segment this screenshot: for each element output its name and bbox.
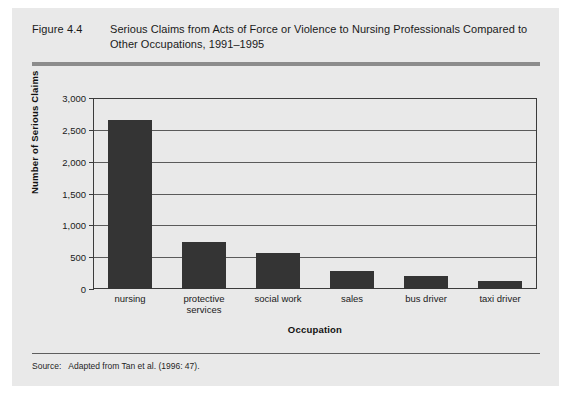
y-axis-title: Number of Serious Claims <box>29 70 40 194</box>
figure-title: Serious Claims from Acts of Force or Vio… <box>110 22 542 51</box>
y-axis-tick-label: 2,500 <box>62 124 86 135</box>
y-axis-tick-label: 3,000 <box>62 93 86 104</box>
bar <box>404 276 448 289</box>
y-axis-tick-label: 1,000 <box>62 220 86 231</box>
source-note: Source: Adapted from Tan et al. (1996: 4… <box>32 361 200 371</box>
source-label: Source: <box>32 361 61 371</box>
x-axis-title: Occupation <box>93 324 537 335</box>
y-axis-tick <box>89 289 94 290</box>
bar <box>330 271 374 289</box>
bar <box>478 281 522 289</box>
bar-slot <box>167 98 241 289</box>
y-axis-tick-label: 1,500 <box>62 188 86 199</box>
x-axis-tick-label: taxi driver <box>463 293 537 304</box>
source-text: Adapted from Tan et al. (1996: 47). <box>68 361 199 371</box>
y-axis-tick-label: 2,000 <box>62 156 86 167</box>
bar-slot <box>93 98 167 289</box>
header-divider <box>32 62 540 66</box>
bar-slot <box>463 98 537 289</box>
bar <box>108 120 152 289</box>
bar-slot <box>389 98 463 289</box>
bars-layer <box>93 98 537 289</box>
figure-header: Figure 4.4 Serious Claims from Acts of F… <box>32 22 542 51</box>
figure-panel: Figure 4.4 Serious Claims from Acts of F… <box>12 8 559 386</box>
x-axis-tick-label: bus driver <box>389 293 463 304</box>
figure-number: Figure 4.4 <box>32 22 110 36</box>
bar <box>182 242 226 289</box>
bar-slot <box>241 98 315 289</box>
x-axis-tick-label: social work <box>241 293 315 304</box>
bar <box>256 253 300 289</box>
bar-chart: Number of Serious Claims 05001,0001,5002… <box>32 74 540 348</box>
y-axis-tick-label: 500 <box>70 252 86 263</box>
x-axis-tick-label: sales <box>315 293 389 304</box>
x-axis-tick-label: nursing <box>93 293 167 304</box>
x-axis-tick-label: protective services <box>167 293 241 315</box>
bar-slot <box>315 98 389 289</box>
source-divider <box>32 353 540 354</box>
y-axis-tick-label: 0 <box>81 284 86 295</box>
